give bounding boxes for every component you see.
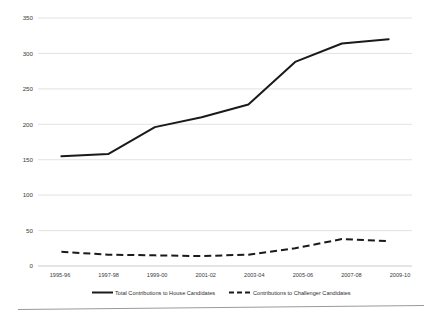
y-tick-label: 350 xyxy=(23,14,34,21)
y-tick-label: 50 xyxy=(26,227,33,234)
x-tick-label: 2003-04 xyxy=(244,272,265,278)
y-tick-label: 250 xyxy=(23,85,34,92)
x-tick-label: 1999-00 xyxy=(147,272,168,278)
chart-container: 350 300 250 200 150 100 50 0 1995-96 199… xyxy=(0,0,433,318)
line-chart: 350 300 250 200 150 100 50 0 1995-96 199… xyxy=(0,0,433,318)
x-tick-label: 1995-96 xyxy=(50,272,71,278)
legend-label-challenger: Contributions to Challenger Candidates xyxy=(253,290,351,296)
x-tick-label: 1997-98 xyxy=(98,272,119,278)
x-tick-label: 2007-08 xyxy=(341,272,362,278)
y-tick-label: 300 xyxy=(23,50,34,57)
y-tick-label: 0 xyxy=(30,262,34,269)
x-tick-label: 2005-06 xyxy=(293,272,314,278)
legend-label-total: Total Contributions to House Candidates xyxy=(115,290,215,296)
y-tick-label: 200 xyxy=(23,121,34,128)
y-tick-label: 150 xyxy=(23,156,34,163)
chart-background xyxy=(0,0,433,318)
x-tick-label: 2009-10 xyxy=(390,272,411,278)
y-tick-label: 100 xyxy=(23,191,34,198)
x-tick-label: 2001-02 xyxy=(195,272,216,278)
